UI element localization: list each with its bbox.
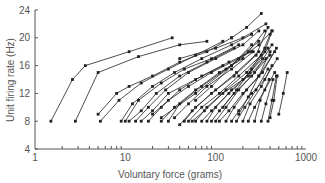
data-point-marker <box>178 75 181 78</box>
data-point-marker <box>260 120 263 123</box>
data-point-marker <box>269 50 272 53</box>
data-point-marker <box>194 92 197 95</box>
data-point-marker <box>147 120 150 123</box>
data-point-marker <box>253 106 256 109</box>
data-point-marker <box>265 102 268 105</box>
data-point-marker <box>178 123 181 126</box>
data-point-marker <box>247 96 250 99</box>
data-point-marker <box>71 78 74 81</box>
data-point-marker <box>137 55 140 58</box>
data-point-marker <box>140 82 143 85</box>
data-point-marker <box>115 92 118 95</box>
data-point-marker <box>249 102 252 105</box>
data-point-marker <box>271 43 274 46</box>
data-point-marker <box>206 106 209 109</box>
data-point-marker <box>218 120 221 123</box>
data-point-marker <box>230 120 233 123</box>
data-point-marker <box>151 113 154 116</box>
data-point-marker <box>261 71 264 74</box>
data-point-marker <box>245 26 248 29</box>
data-point-marker <box>253 71 256 74</box>
data-point-marker <box>210 120 213 123</box>
data-point-marker <box>250 43 253 46</box>
y-tick-label: 24 <box>19 5 31 16</box>
data-point-marker <box>128 50 131 53</box>
data-point-marker <box>97 113 100 116</box>
data-point-marker <box>263 47 266 50</box>
data-point-marker <box>194 120 197 123</box>
data-point-marker <box>173 71 176 74</box>
axes: 48121620241101001000 <box>19 5 318 164</box>
data-point-marker <box>268 78 271 81</box>
data-point-marker <box>160 116 163 119</box>
data-point-marker <box>214 57 217 60</box>
data-point-marker <box>194 99 197 102</box>
data-point-marker <box>221 106 224 109</box>
data-point-marker <box>118 99 121 102</box>
data-point-marker <box>155 92 158 95</box>
data-point-marker <box>225 106 228 109</box>
data-point-marker <box>273 71 276 74</box>
data-point-marker <box>131 102 134 105</box>
data-point-marker <box>187 120 190 123</box>
data-point-marker <box>187 85 190 88</box>
series-line <box>243 66 272 122</box>
data-point-marker <box>225 120 228 123</box>
x-tick-label: 1 <box>32 152 38 163</box>
data-point-marker <box>265 23 268 26</box>
data-point-marker <box>218 109 221 112</box>
data-point-marker <box>84 64 87 67</box>
data-point-marker <box>253 120 256 123</box>
x-axis-label: Voluntary force (grams) <box>118 169 222 180</box>
data-point-marker <box>137 99 140 102</box>
data-point-marker <box>167 68 170 71</box>
data-point-marker <box>269 116 272 119</box>
data-point-marker <box>257 43 260 46</box>
y-tick-label: 16 <box>19 60 31 71</box>
data-series <box>50 12 289 126</box>
data-point-marker <box>242 36 245 39</box>
data-point-marker <box>214 120 217 123</box>
data-point-marker <box>257 50 260 53</box>
data-point-marker <box>286 71 289 74</box>
data-point-marker <box>237 113 240 116</box>
data-point-marker <box>230 68 233 71</box>
x-tick-label: 1000 <box>295 152 318 163</box>
data-point-marker <box>237 43 240 46</box>
data-point-marker <box>250 68 253 71</box>
data-point-marker <box>243 106 246 109</box>
data-point-marker <box>228 109 231 112</box>
series-line <box>100 41 222 121</box>
data-point-marker <box>206 40 209 43</box>
data-point-marker <box>225 89 228 92</box>
data-point-marker <box>275 47 278 50</box>
data-point-marker <box>245 71 248 74</box>
data-point-marker <box>151 109 154 112</box>
data-point-marker <box>210 71 213 74</box>
data-point-marker <box>277 113 280 116</box>
data-point-marker <box>259 99 262 102</box>
series-line <box>270 76 277 118</box>
data-point-marker <box>260 12 263 15</box>
data-point-marker <box>271 64 274 67</box>
data-point-marker <box>247 120 250 123</box>
data-point-marker <box>200 106 203 109</box>
data-point-marker <box>120 120 123 123</box>
y-tick-label: 20 <box>19 32 31 43</box>
data-point-marker <box>210 85 213 88</box>
data-point-marker <box>235 89 238 92</box>
x-tick-label: 10 <box>120 152 132 163</box>
data-point-marker <box>200 85 203 88</box>
data-point-marker <box>140 120 143 123</box>
data-point-marker <box>272 78 275 81</box>
data-point-marker <box>160 120 163 123</box>
data-point-marker <box>257 30 260 33</box>
data-point-marker <box>178 57 181 60</box>
data-point-marker <box>194 106 197 109</box>
data-point-marker <box>134 120 137 123</box>
data-point-marker <box>242 120 245 123</box>
data-point-marker <box>167 92 170 95</box>
data-point-marker <box>187 71 190 74</box>
data-point-marker <box>206 120 209 123</box>
data-point-marker <box>252 50 255 53</box>
